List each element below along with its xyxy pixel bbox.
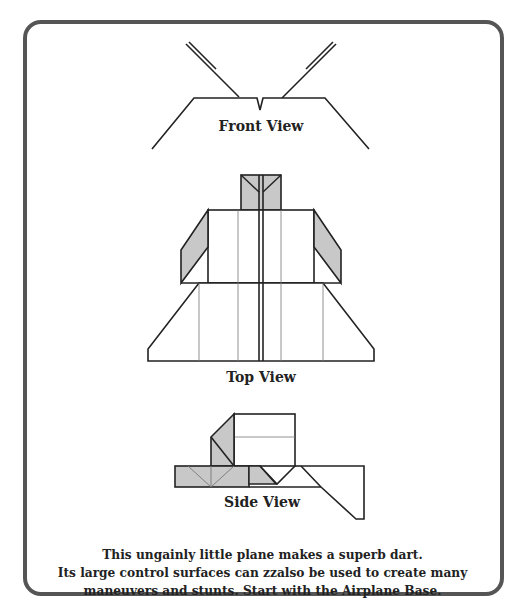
caption-line: Its large control surfaces can zzalso be… <box>0 564 525 582</box>
side-view-label: Side View <box>224 494 300 510</box>
front-view-label: Front View <box>219 118 304 134</box>
caption-line: maneuvers and stunts. Start with the Air… <box>0 582 525 600</box>
top-view-label: Top View <box>226 369 296 385</box>
top-view-drawing <box>148 175 374 361</box>
airplane-diagram <box>0 0 525 611</box>
caption-line: This ungainly little plane makes a super… <box>0 546 525 564</box>
caption: This ungainly little plane makes a super… <box>0 546 525 600</box>
